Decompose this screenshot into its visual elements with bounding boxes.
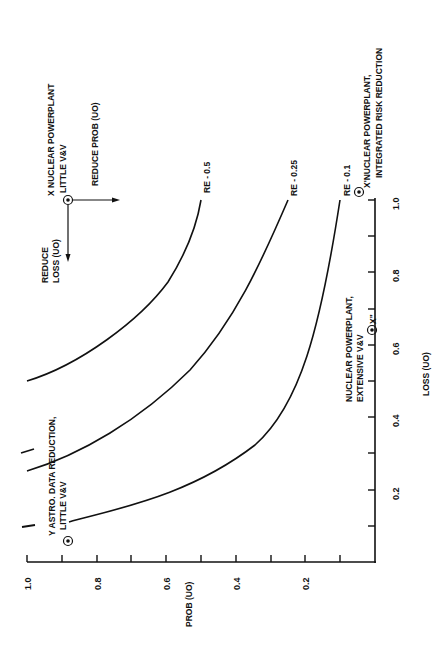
loss-tick-labels: 0.2 0.4 0.6 0.8 1.0 [391,197,401,500]
point-x-label-2: LITTLE V&V [58,144,68,193]
arrow-right-icon [112,198,120,203]
label-re-0.5: RE - 0.5 [202,162,212,193]
loss-tick-0.4: 0.4 [391,414,401,427]
label-re-0.1: RE - 0.1 [342,165,352,196]
point-y-label-2: LITTLE V&V [58,481,68,530]
point-y: Y ASTRO. DATA REDUCTION, LITTLE V&V [47,417,73,546]
reduce-prob-label: REDUCE PROB (UO) [90,102,100,186]
prob-tick-0.8: 0.8 [93,577,103,590]
axes [27,198,376,563]
prob-tick-0.6: 0.6 [162,577,172,590]
curve-re-0.5 [27,200,201,381]
point-y-label-1: Y ASTRO. DATA REDUCTION, [47,417,57,536]
prob-tick-0.4: 0.4 [232,577,242,590]
point-x-double-prime-label-2: EXTENSIVE V&V [355,334,365,402]
loss-axis-label: LOSS (UO) [421,352,431,396]
reduce-loss-label-2: LOSS (UO) [51,239,61,283]
point-x: X NUCLEAR POWERPLANT LITTLE V&V REDUCE P… [40,83,120,283]
point-x-double-prime-marker-label: X" [368,314,378,324]
risk-chart: 1.0 0.8 0.6 0.4 0.2 PROB (UO) 0.2 0.4 0.… [0,0,437,649]
point-x-double-prime: X" NUCLEAR POWERPLANT, EXTENSIVE V&V [344,296,378,402]
curve-re-0.1 [69,200,340,522]
curve-re-0.25 [27,200,288,471]
prob-tick-0.2: 0.2 [301,577,311,590]
loss-tick-0.6: 0.6 [391,342,401,355]
point-x-prime: X'NUCLEAR POWERPLANT, INTEGRATED RISK RE… [355,48,385,197]
loss-tick-0.2: 0.2 [391,487,401,500]
prob-tick-1.0: 1.0 [23,577,33,590]
prob-ticks [27,555,340,562]
prob-axis-label: PROB (UO) [184,582,194,628]
curve-stub-1 [21,449,34,453]
loss-tick-0.8: 0.8 [391,269,401,282]
reduce-loss-label-1: REDUCE [40,247,50,283]
curve-stub-2 [22,525,35,527]
label-re-0.25: RE - 0.25 [289,160,299,196]
point-x-prime-label-2: INTEGRATED RISK REDUCTION [374,48,384,178]
point-x-prime-label-1: X'NUCLEAR POWERPLANT, [362,75,372,188]
point-x-label-1: X NUCLEAR POWERPLANT [46,83,56,196]
prob-tick-labels: 1.0 0.8 0.6 0.4 0.2 [23,577,311,590]
point-x-double-prime-label-1: NUCLEAR POWERPLANT, [344,296,354,402]
arrow-down-icon [66,254,71,262]
loss-tick-1.0: 1.0 [391,197,401,210]
loss-ticks [368,200,375,526]
